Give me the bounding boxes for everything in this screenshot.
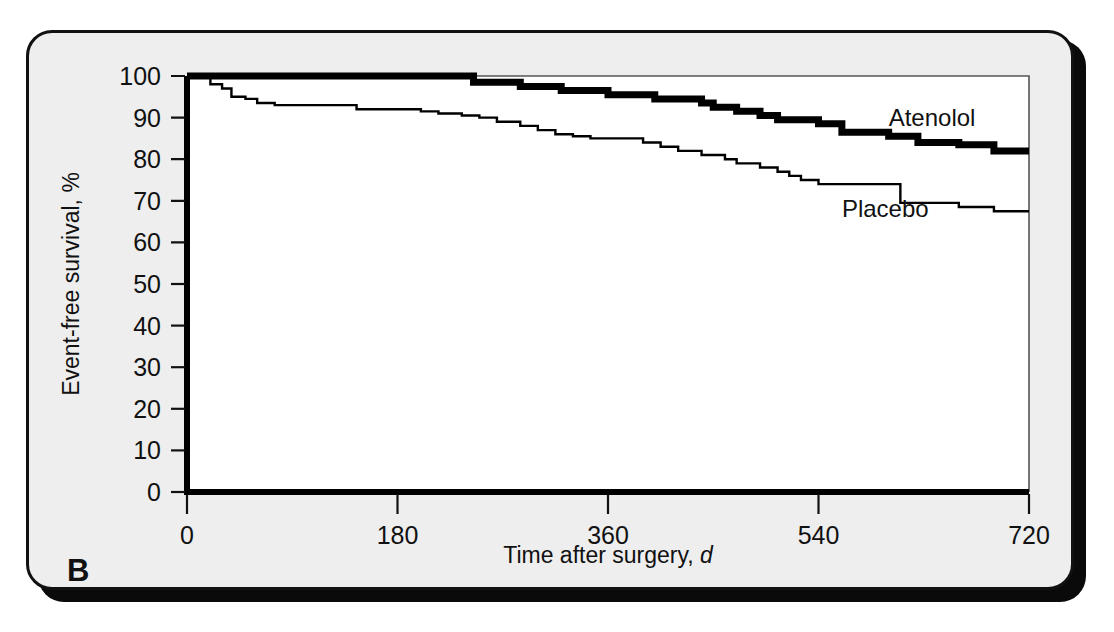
- panel-letter: B: [67, 553, 89, 588]
- figure-panel: 0102030405060708090100 0180360540720 Tim…: [26, 30, 1074, 590]
- y-tick-label: 0: [147, 478, 161, 506]
- y-tick-label: 10: [133, 436, 161, 464]
- x-tick-label: 0: [180, 521, 194, 549]
- y-tick-label: 80: [133, 145, 161, 173]
- x-axis-ticks: 0180360540720: [180, 494, 1050, 549]
- series-label-placebo: Placebo: [842, 195, 929, 222]
- x-axis-title: Time after surgery, d: [503, 542, 714, 568]
- y-axis-title: Event-free survival, %: [58, 172, 84, 396]
- x-tick-label: 540: [798, 521, 840, 549]
- y-tick-label: 30: [133, 353, 161, 381]
- series-label-atenolol: Atenolol: [889, 104, 976, 131]
- y-axis-ticks: 0102030405060708090100: [119, 62, 185, 506]
- y-tick-label: 20: [133, 395, 161, 423]
- y-tick-label: 90: [133, 104, 161, 132]
- y-tick-label: 70: [133, 187, 161, 215]
- x-tick-label: 180: [377, 521, 419, 549]
- chart-svg: 0102030405060708090100 0180360540720 Tim…: [26, 30, 1074, 590]
- y-tick-label: 100: [119, 62, 161, 90]
- x-tick-label: 720: [1008, 521, 1050, 549]
- y-tick-label: 50: [133, 270, 161, 298]
- y-tick-label: 60: [133, 228, 161, 256]
- figure-root: 0102030405060708090100 0180360540720 Tim…: [0, 0, 1114, 632]
- y-tick-label: 40: [133, 312, 161, 340]
